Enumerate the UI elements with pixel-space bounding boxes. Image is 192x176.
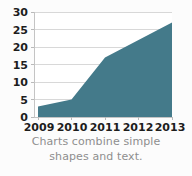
x-axis-label-2009: 2009	[24, 121, 55, 133]
x-axis-label-2010: 2010	[57, 121, 88, 133]
x-axis-label-2012: 2012	[123, 121, 154, 133]
x-axis-labels: 2009 2010 2011 2012 2013	[24, 121, 186, 133]
y-axis-label-15: 15	[13, 59, 28, 72]
caption-line-1: Charts combine simple	[0, 134, 192, 149]
caption-line-2: shapes and text.	[0, 149, 192, 164]
chart-figure: 30 25 20 15 10 5 0 2009 2010 2011 2012 2…	[0, 0, 192, 176]
x-axis-label-2013: 2013	[155, 121, 186, 133]
y-axis-label-25: 25	[13, 24, 28, 37]
y-axis-labels: 30 25 20 15 10 5 0	[13, 6, 29, 124]
x-axis-label-2011: 2011	[90, 121, 121, 133]
area-chart: 30 25 20 15 10 5 0 2009 2010 2011 2012 2…	[0, 0, 192, 133]
y-axis-label-10: 10	[13, 76, 29, 89]
y-axis-label-5: 5	[20, 94, 28, 107]
chart-caption: Charts combine simple shapes and text.	[0, 134, 192, 164]
y-axis-label-20: 20	[13, 41, 29, 54]
chart-canvas: 30 25 20 15 10 5 0 2009 2010 2011 2012 2…	[0, 0, 192, 133]
y-axis-label-30: 30	[13, 6, 29, 19]
